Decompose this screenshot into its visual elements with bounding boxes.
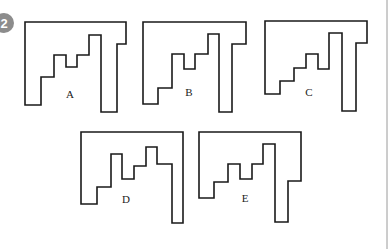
option-label-c: C (305, 86, 312, 98)
staircase-outline-d (81, 132, 183, 223)
figure-canvas: 2 A B C D E (0, 0, 391, 249)
staircase-outline-c (265, 21, 367, 111)
staircase-outline-a (25, 22, 126, 112)
option-label-e: E (242, 192, 249, 204)
option-figure-e[interactable]: E (199, 132, 301, 222)
staircase-outline-b (143, 22, 246, 112)
option-figure-a[interactable]: A (25, 22, 126, 112)
option-label-b: B (185, 86, 192, 98)
option-label-d: D (122, 193, 130, 205)
option-figure-b[interactable]: B (143, 22, 246, 112)
option-figure-c[interactable]: C (265, 21, 367, 111)
staircase-outline-e (199, 132, 301, 222)
option-figure-d[interactable]: D (81, 132, 183, 223)
question-number-badge: 2 (0, 13, 14, 33)
question-number: 2 (0, 16, 7, 31)
option-label-a: A (66, 88, 74, 100)
